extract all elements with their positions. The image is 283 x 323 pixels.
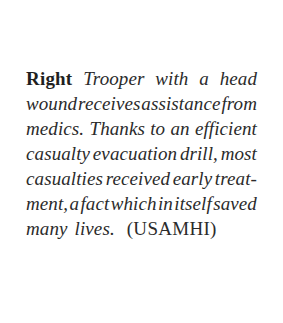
caption-line: ment, a fact which in itself saved [26, 191, 257, 216]
caption-line: casualties received early treat- [26, 166, 257, 191]
caption-word: casualty [26, 141, 90, 166]
caption-word: itself [174, 191, 212, 216]
caption-word: most [221, 141, 257, 166]
caption-word: ment, [26, 191, 68, 216]
caption-word: wound [26, 91, 77, 116]
caption-word: head [220, 66, 257, 91]
caption-word: evacuation [93, 141, 177, 166]
caption-word: medics. [26, 116, 84, 141]
caption-word: a [70, 191, 80, 216]
caption-word: with [155, 66, 188, 91]
caption-word: early [173, 166, 213, 191]
caption-word: a [199, 66, 209, 91]
caption-line: casualty evacuation drill, most [26, 141, 257, 166]
scanned-page: Right Trooper with a head wound receives… [0, 0, 283, 323]
caption-line: medics. Thanks to an efficient [26, 116, 257, 141]
photo-caption: Right Trooper with a head wound receives… [26, 66, 257, 241]
caption-word: drill, [180, 141, 218, 166]
caption-lead-in: Right [26, 66, 72, 91]
caption-word: from [221, 91, 257, 116]
caption-line: Right Trooper with a head [26, 66, 257, 91]
caption-word: many [26, 218, 68, 239]
caption-word: fact [80, 191, 109, 216]
caption-word: casualties [26, 166, 103, 191]
caption-word: received [106, 166, 170, 191]
caption-word: receives [78, 91, 140, 116]
caption-word: which [111, 191, 157, 216]
caption-word: Trooper [83, 66, 144, 91]
caption-line: wound receives assistance from [26, 91, 257, 116]
caption-line: manylives.(USAMHI) [26, 216, 257, 241]
caption-word: lives. [75, 218, 115, 239]
caption-word: an [170, 116, 189, 141]
photo-credit: (USAMHI) [127, 218, 217, 239]
caption-word: saved [213, 191, 257, 216]
caption-word: assistance [141, 91, 220, 116]
caption-word: to [150, 116, 165, 141]
caption-word: Thanks [89, 116, 145, 141]
caption-word: in [158, 191, 173, 216]
caption-word-hyphenated: treat- [215, 166, 257, 191]
caption-word: efficient [195, 116, 257, 141]
